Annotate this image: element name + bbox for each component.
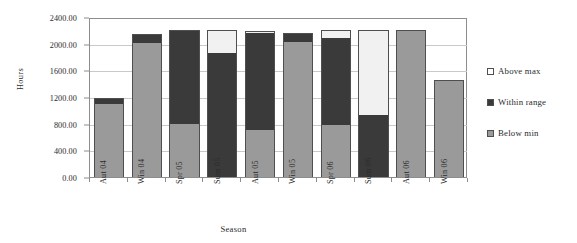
bar-stack[interactable] bbox=[132, 34, 162, 177]
y-axis-tick-label: 1200.00 bbox=[50, 94, 77, 103]
x-axis-tick-mark bbox=[278, 178, 279, 182]
x-axis-tick-mark bbox=[354, 178, 355, 182]
plot-right-border bbox=[466, 18, 467, 177]
bar-stack[interactable] bbox=[283, 33, 313, 177]
bar-group[interactable] bbox=[283, 18, 313, 177]
legend-swatch-icon bbox=[487, 99, 494, 106]
x-axis-tick-label: Sum 05 bbox=[212, 158, 221, 184]
bar-group[interactable] bbox=[434, 18, 464, 177]
x-axis-tick-mark bbox=[391, 178, 392, 182]
y-axis-tick-label: 1600.00 bbox=[50, 67, 77, 76]
y-axis-tick-label: 800.00 bbox=[54, 120, 77, 129]
bar-segment[interactable] bbox=[283, 42, 313, 177]
bar-segment[interactable] bbox=[169, 30, 199, 125]
x-axis-tick-label: Sum 06 bbox=[364, 158, 373, 184]
bar-segment[interactable] bbox=[434, 80, 464, 177]
y-axis-tick-labels: 0.00400.00800.001200.001600.002000.00240… bbox=[0, 0, 89, 243]
x-axis-tick-label: Aut 06 bbox=[401, 160, 410, 184]
bar-segment[interactable] bbox=[245, 130, 275, 177]
x-axis-tick-mark bbox=[127, 178, 128, 182]
x-axis-tick-mark bbox=[467, 178, 468, 182]
bar-stack[interactable] bbox=[169, 30, 199, 177]
chart-container: 0.00400.00800.001200.001600.002000.00240… bbox=[0, 0, 577, 243]
bar-segment[interactable] bbox=[321, 30, 351, 39]
x-axis-tick-mark bbox=[202, 178, 203, 182]
x-axis-tick-mark bbox=[165, 178, 166, 182]
bar-segment[interactable] bbox=[283, 33, 313, 42]
bar-group[interactable] bbox=[396, 18, 426, 177]
bar-stack[interactable] bbox=[245, 31, 275, 177]
x-axis-tick-label: Win 05 bbox=[288, 159, 297, 184]
bar-segment[interactable] bbox=[358, 30, 388, 115]
x-axis-tick-label: Aut 05 bbox=[250, 160, 259, 184]
plot-area bbox=[89, 18, 467, 178]
legend-item[interactable]: Below min bbox=[487, 128, 577, 138]
bar-segment[interactable] bbox=[132, 43, 162, 177]
bar-stack[interactable] bbox=[434, 80, 464, 177]
y-axis-tick-label: 0.00 bbox=[62, 174, 77, 183]
bar-group[interactable] bbox=[358, 18, 388, 177]
y-axis-tick-label: 2000.00 bbox=[50, 40, 77, 49]
bar-segment[interactable] bbox=[396, 30, 426, 177]
bar-stack[interactable] bbox=[321, 30, 351, 177]
legend-item[interactable]: Within range bbox=[487, 97, 577, 107]
bar-group[interactable] bbox=[321, 18, 351, 177]
legend-item[interactable]: Above max bbox=[487, 66, 577, 76]
bar-segment[interactable] bbox=[132, 34, 162, 43]
bar-segment[interactable] bbox=[321, 38, 351, 125]
y-axis-title: Hours bbox=[16, 68, 30, 90]
bar-group[interactable] bbox=[169, 18, 199, 177]
y-axis-tick-label: 400.00 bbox=[54, 147, 77, 156]
y-axis-tick-label: 2400.00 bbox=[50, 14, 77, 23]
legend-label: Below min bbox=[498, 128, 539, 138]
x-axis-tick-label: Spr 06 bbox=[326, 161, 335, 184]
bar-segment[interactable] bbox=[207, 30, 237, 53]
x-axis-tick-mark bbox=[316, 178, 317, 182]
x-axis-tick-labels: Aut 04Win 04Spr 05Sum 05Aut 05Win 05Spr … bbox=[89, 184, 467, 224]
x-axis-tick-label: Spr 05 bbox=[175, 161, 184, 184]
x-axis-tick-mark bbox=[89, 178, 90, 182]
legend-swatch-icon bbox=[487, 68, 494, 75]
x-axis-tick-mark bbox=[240, 178, 241, 182]
bar-segment[interactable] bbox=[245, 33, 275, 130]
bar-group[interactable] bbox=[245, 18, 275, 177]
bar-group[interactable] bbox=[132, 18, 162, 177]
bar-stack[interactable] bbox=[207, 30, 237, 177]
legend-label: Within range bbox=[498, 97, 546, 107]
bar-group[interactable] bbox=[94, 18, 124, 177]
legend-swatch-icon bbox=[487, 130, 494, 137]
x-axis-tick-label: Win 04 bbox=[137, 159, 146, 184]
x-axis-tick-mark bbox=[429, 178, 430, 182]
bar-stack[interactable] bbox=[396, 30, 426, 177]
chart-legend: Above maxWithin rangeBelow min bbox=[487, 66, 577, 159]
x-axis-tick-label: Aut 04 bbox=[99, 160, 108, 184]
bar-stack[interactable] bbox=[358, 30, 388, 177]
bar-group[interactable] bbox=[207, 18, 237, 177]
legend-label: Above max bbox=[498, 66, 541, 76]
x-axis-title: Season bbox=[0, 224, 467, 234]
x-axis-tick-label: Win 06 bbox=[439, 159, 448, 184]
